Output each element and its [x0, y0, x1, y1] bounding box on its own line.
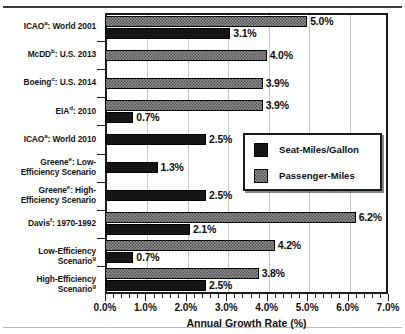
bar-passenger-miles [105, 16, 307, 27]
x-axis-minor-tick [299, 294, 300, 298]
y-axis-label: Boeingc: U.S. 2014 [0, 78, 96, 88]
bar-value-label: 4.0% [270, 50, 293, 61]
x-axis-tick-label: 7.0% [377, 302, 400, 313]
x-axis-tick-label: 3.0% [215, 302, 238, 313]
legend-swatch-passenger-miles [254, 169, 268, 183]
y-axis-tick [97, 182, 105, 183]
x-axis-minor-tick [129, 294, 130, 298]
x-axis-tick-label: 6.0% [336, 302, 359, 313]
y-axis-label: Greenee: High-Efficiency Scenario [0, 186, 96, 205]
page-rule-top [3, 6, 402, 8]
bar-seat-miles-per-gallon [105, 162, 158, 173]
x-axis-minor-tick [234, 294, 235, 298]
y-axis-tick [97, 69, 105, 70]
y-axis-label: Low-Efficiency Scenariog [0, 247, 96, 266]
bar-value-label: 0.7% [136, 252, 159, 263]
x-axis-minor-tick [178, 294, 179, 298]
bar-seat-miles-per-gallon [105, 252, 133, 263]
x-axis-minor-tick [372, 294, 373, 298]
bar-value-label: 2.1% [193, 224, 216, 235]
bar-row: 6.2%2.1% [105, 210, 388, 238]
bar-value-label: 3.9% [266, 78, 289, 89]
legend-swatch-seat-miles-per-gallon [254, 143, 268, 157]
x-axis-minor-tick [162, 294, 163, 298]
y-axis-tick [97, 154, 105, 155]
x-axis-minor-tick [113, 294, 114, 298]
legend-label-passenger-miles: Passenger-Miles [279, 170, 355, 181]
x-axis-minor-tick [210, 294, 211, 298]
bar-passenger-miles [105, 50, 267, 61]
y-axis-tick [97, 125, 105, 126]
y-axis-label: Greenee: Low-Efficiency Scenario [0, 158, 96, 177]
y-axis-label: High-Efficiency Scenariog [0, 275, 96, 294]
x-axis-minor-tick [315, 294, 316, 298]
y-axis-tick [97, 97, 105, 98]
bar-row: 4.0% [105, 41, 388, 69]
x-axis-minor-tick [218, 294, 219, 298]
x-axis-major-tick [105, 294, 106, 301]
legend-label-seat-miles-per-gallon: Seat-Miles/Gallon [279, 144, 359, 155]
x-axis-minor-tick [121, 294, 122, 298]
x-axis-major-tick [226, 294, 227, 301]
bar-seat-miles-per-gallon [105, 134, 206, 145]
bar-passenger-miles [105, 78, 263, 89]
bar-passenger-miles [105, 100, 263, 111]
y-axis-label: McDDb: U.S. 2013 [0, 50, 96, 60]
bar-seat-miles-per-gallon [105, 190, 206, 201]
bar-passenger-miles [105, 240, 275, 251]
bar-value-label: 4.2% [278, 240, 301, 251]
x-axis-major-tick [267, 294, 268, 301]
chart-legend: Seat-Miles/Gallon Passenger-Miles [243, 133, 382, 191]
bar-row: 3.8%2.5% [105, 266, 388, 294]
bar-row: 4.2%0.7% [105, 238, 388, 266]
x-axis-major-tick [145, 294, 146, 301]
bar-row: 5.0%3.1% [105, 13, 388, 41]
x-axis-minor-tick [259, 294, 260, 298]
x-axis-minor-tick [170, 294, 171, 298]
y-axis-label: ICAOa: World 2001 [0, 22, 96, 32]
bar-row: 3.9%0.7% [105, 97, 388, 125]
x-axis-major-tick [186, 294, 187, 301]
bar-seat-miles-per-gallon [105, 28, 230, 39]
x-axis-ticks [105, 294, 388, 301]
bar-seat-miles-per-gallon [105, 112, 133, 123]
bar-passenger-miles [105, 212, 356, 223]
x-axis-minor-tick [283, 294, 284, 298]
y-axis-label: Davisf: 1970-1992 [0, 219, 96, 229]
y-axis-label: EIAd: 2010 [0, 107, 96, 117]
bar-value-label: 2.5% [209, 190, 232, 201]
x-axis-tick-label: 4.0% [255, 302, 278, 313]
x-axis-minor-tick [275, 294, 276, 298]
bar-value-label: 3.8% [262, 268, 285, 279]
x-axis-minor-tick [242, 294, 243, 298]
x-axis-major-tick [348, 294, 349, 301]
y-axis-tick [97, 238, 105, 239]
bar-value-label: 5.0% [310, 16, 333, 27]
x-axis-minor-tick [137, 294, 138, 298]
x-axis-tick-labels: 0.0%1.0%2.0%3.0%4.0%5.0%6.0%7.0% [0, 302, 405, 316]
x-axis-tick-label: 2.0% [174, 302, 197, 313]
x-axis-minor-tick [202, 294, 203, 298]
bar-value-label: 1.3% [161, 162, 184, 173]
bar-value-label: 6.2% [359, 212, 382, 223]
x-axis-tick-label: 5.0% [296, 302, 319, 313]
x-axis-title: Annual Growth Rate (%) [105, 317, 388, 329]
bar-row: 3.9% [105, 69, 388, 97]
x-axis-minor-tick [380, 294, 381, 298]
x-axis-minor-tick [154, 294, 155, 298]
bar-passenger-miles [105, 268, 259, 279]
y-axis-label: ICAOa: World 2010 [0, 135, 96, 145]
bar-seat-miles-per-gallon [105, 280, 206, 291]
x-axis-minor-tick [194, 294, 195, 298]
x-axis-minor-tick [356, 294, 357, 298]
x-axis-tick-label: 0.0% [94, 302, 117, 313]
x-axis-major-tick [388, 294, 389, 301]
bar-chart-figure: ICAOa: World 2001McDDb: U.S. 2013Boeingc… [0, 0, 405, 334]
bar-value-label: 3.9% [266, 100, 289, 111]
bar-seat-miles-per-gallon [105, 224, 190, 235]
x-axis-minor-tick [364, 294, 365, 298]
y-axis-tick [97, 41, 105, 42]
x-axis-minor-tick [251, 294, 252, 298]
y-axis-category-labels: ICAOa: World 2001McDDb: U.S. 2013Boeingc… [0, 13, 101, 294]
y-axis-tick [97, 266, 105, 267]
